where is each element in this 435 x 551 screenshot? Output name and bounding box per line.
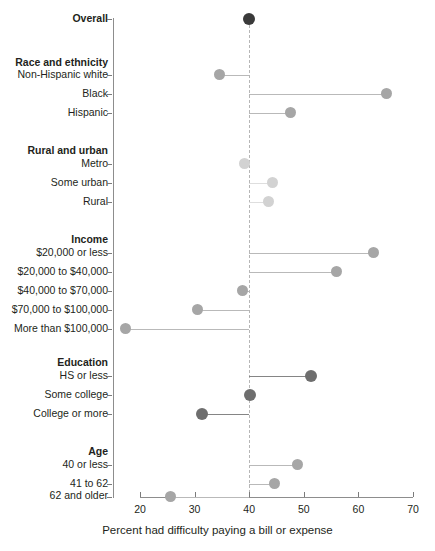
- overall-reference-line: [249, 20, 250, 498]
- data-point-income-4: [192, 304, 203, 315]
- y-tick-metro: [107, 164, 112, 165]
- dot-plot-chart: Overall Race and ethnicity Non-Hispanic …: [0, 0, 435, 551]
- y-tick-income-1: [107, 253, 112, 254]
- data-point-income-3: [237, 285, 248, 296]
- x-tick-label-60: 60: [343, 503, 373, 515]
- connector-hispanic: [249, 113, 290, 114]
- connector-income-4: [197, 310, 249, 311]
- y-tick-income-3: [107, 291, 112, 292]
- data-point-black: [381, 88, 392, 99]
- row-label-some-urban: Some urban: [0, 177, 108, 188]
- y-tick-education-1: [107, 376, 112, 377]
- connector-age-1: [249, 465, 297, 466]
- data-point-age-1: [292, 459, 303, 470]
- data-point-rural: [263, 196, 274, 207]
- row-label-education-2: Some college: [0, 389, 108, 400]
- data-point-income-5: [120, 323, 131, 334]
- x-tick-mark-40: [249, 492, 250, 497]
- row-label-income-5: More than $100,000: [0, 323, 108, 334]
- connector-education-1: [249, 376, 311, 377]
- connector-income-5: [125, 329, 249, 330]
- y-tick-age-2: [107, 484, 112, 485]
- group-header-education: Education: [0, 357, 108, 368]
- x-tick-label-40: 40: [234, 503, 264, 515]
- x-tick-mark-50: [304, 492, 305, 497]
- data-point-income-2: [331, 266, 342, 277]
- y-tick-hispanic: [107, 113, 112, 114]
- row-label-hispanic: Hispanic: [0, 107, 108, 118]
- x-axis-title: Percent had difficulty paying a bill or …: [0, 524, 435, 536]
- data-point-some-urban: [267, 177, 278, 188]
- x-tick-mark-30: [195, 492, 196, 497]
- data-point-overall: [243, 13, 255, 25]
- x-tick-label-50: 50: [289, 503, 319, 515]
- group-header-rural-urban: Rural and urban: [0, 145, 108, 156]
- y-tick-some-urban: [107, 183, 112, 184]
- y-tick-rural: [107, 202, 112, 203]
- row-label-black: Black: [0, 88, 108, 99]
- data-point-education-3: [196, 408, 208, 420]
- y-tick-income-4: [107, 310, 112, 311]
- connector-income-2: [249, 272, 336, 273]
- y-tick-income-5: [107, 329, 112, 330]
- y-tick-overall: [107, 19, 112, 20]
- y-axis-spine: [113, 18, 114, 498]
- row-label-overall: Overall: [0, 13, 108, 24]
- row-label-income-3: $40,000 to $70,000: [0, 285, 108, 296]
- row-label-education-1: HS or less: [0, 370, 108, 381]
- group-header-age: Age: [0, 446, 108, 457]
- y-tick-age-3: [107, 497, 112, 498]
- row-label-metro: Metro: [0, 158, 108, 169]
- group-header-race-ethnicity: Race and ethnicity: [0, 57, 108, 68]
- data-point-education-1: [305, 370, 317, 382]
- data-point-education-2: [244, 389, 256, 401]
- x-tick-mark-20: [140, 492, 141, 497]
- data-point-hispanic: [285, 107, 296, 118]
- y-tick-education-2: [107, 395, 112, 396]
- row-label-rural: Rural: [0, 196, 108, 207]
- y-tick-black: [107, 94, 112, 95]
- y-tick-income-2: [107, 272, 112, 273]
- connector-black: [249, 94, 386, 95]
- row-label-income-4: $70,000 to $100,000: [0, 304, 108, 315]
- x-tick-label-30: 30: [180, 503, 210, 515]
- row-label-age-1: 40 or less: [0, 459, 108, 470]
- x-tick-label-70: 70: [398, 503, 428, 515]
- row-label-education-3: College or more: [0, 408, 108, 419]
- x-tick-label-20: 20: [125, 503, 155, 515]
- data-point-age-3: [165, 491, 176, 502]
- data-point-metro: [239, 158, 250, 169]
- row-label-income-1: $20,000 or less: [0, 247, 108, 258]
- row-label-age-2: 41 to 62: [0, 478, 108, 489]
- group-header-income: Income: [0, 234, 108, 245]
- data-point-age-2: [269, 478, 280, 489]
- row-label-non-hispanic-white: Non-Hispanic white: [0, 69, 108, 80]
- y-tick-age-1: [107, 465, 112, 466]
- connector-education-3: [202, 414, 249, 415]
- row-label-age-3: 62 and older: [0, 490, 108, 501]
- x-tick-mark-70: [413, 492, 414, 497]
- x-tick-mark-60: [358, 492, 359, 497]
- y-tick-non-hispanic-white: [107, 75, 112, 76]
- data-point-income-1: [368, 247, 379, 258]
- connector-income-1: [249, 253, 373, 254]
- data-point-non-hispanic-white: [214, 69, 225, 80]
- connector-age-3: [170, 497, 249, 498]
- row-label-income-2: $20,000 to $40,000: [0, 266, 108, 277]
- y-tick-education-3: [107, 414, 112, 415]
